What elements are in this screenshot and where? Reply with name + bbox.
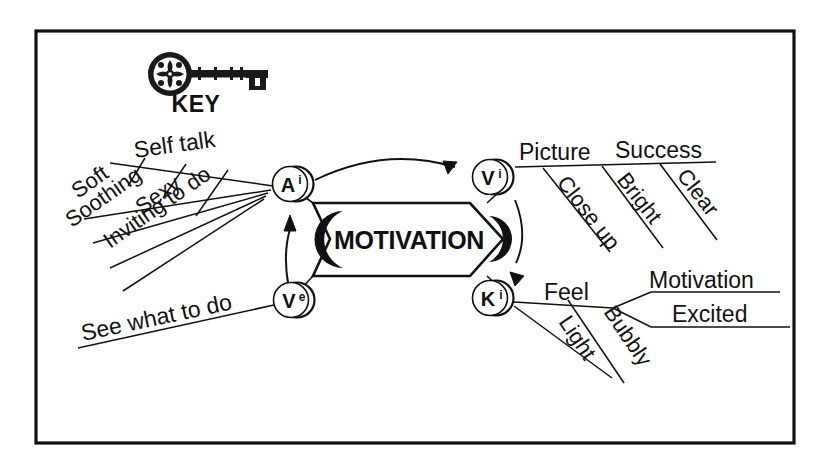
branch-label-picture: Picture (519, 139, 591, 165)
key-motivation-mind-map: KEY MOTIVATION A i V (0, 0, 828, 474)
node-ve[interactable]: V e (274, 283, 315, 318)
node-ai[interactable]: A i (273, 167, 314, 202)
node-ai-superscript: i (298, 173, 301, 187)
node-ki-letter: K (481, 288, 496, 310)
node-vi-superscript: i (498, 167, 501, 181)
node-ai-letter: A (281, 174, 295, 196)
branch-label-excited: Excited (672, 301, 747, 327)
node-ve-superscript: e (299, 290, 306, 304)
branch-label-success: Success (615, 137, 702, 163)
branch-label-feel: Feel (544, 279, 589, 305)
node-ve-letter: V (282, 290, 296, 312)
node-vi[interactable]: V i (473, 160, 514, 195)
key-title-label: KEY (172, 91, 221, 117)
node-vi-letter: V (481, 167, 495, 189)
node-ki-superscript: i (499, 288, 502, 302)
diagram-canvas: KEY MOTIVATION A i V (0, 0, 828, 474)
motivation-banner-label: MOTIVATION (334, 226, 484, 254)
node-ki[interactable]: K i (473, 281, 514, 316)
branch-label-motivation-leaf: Motivation (649, 267, 754, 293)
